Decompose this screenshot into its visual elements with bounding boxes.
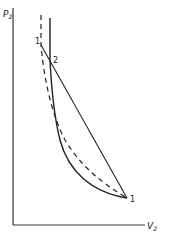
pv-diagram: P2 V2 1 2 1 bbox=[0, 0, 172, 242]
solid-curve bbox=[50, 18, 127, 198]
y-axis-label: P2 bbox=[3, 9, 12, 20]
point-label-1-upper: 1 bbox=[35, 37, 40, 46]
point-label-1-lower: 1 bbox=[130, 195, 135, 204]
point-label-2: 2 bbox=[53, 56, 58, 65]
x-axis-label: V2 bbox=[147, 221, 157, 232]
straight-line bbox=[41, 45, 127, 198]
